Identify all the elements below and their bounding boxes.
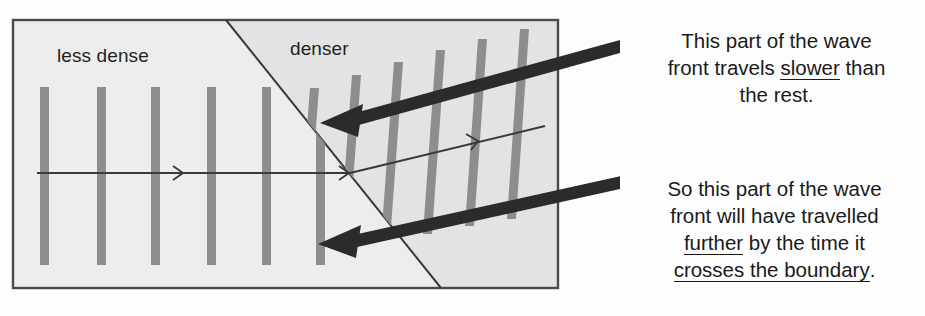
annotation-2-line-4-post: . xyxy=(870,258,876,281)
label-less-dense: less dense xyxy=(57,45,149,66)
label-denser: denser xyxy=(290,38,349,59)
annotation-2-line-3-post: by the time it xyxy=(743,231,865,254)
annotation-2-emphasis-further: further xyxy=(684,231,743,255)
wavefront-bar xyxy=(151,87,160,265)
annotation-1-emphasis-slower: slower xyxy=(780,56,839,80)
annotation-2-emphasis-crosses-boundary: crosses the boundary xyxy=(674,258,870,282)
diagram-svg: less dense denser xyxy=(0,0,620,316)
annotation-2-line-1: So this part of the wave xyxy=(624,175,925,202)
wave-refraction-diagram: less dense denser xyxy=(0,0,620,316)
wavefront-bar xyxy=(40,87,49,265)
annotation-2-line-4: crosses the boundary. xyxy=(624,256,925,283)
annotation-2-line-3: further by the time it xyxy=(624,229,925,256)
annotation-1-line-2: front travels slower than xyxy=(628,54,925,81)
annotation-1-line-2-post: than xyxy=(840,56,886,79)
annotation-1-line-1: This part of the wave xyxy=(628,27,925,54)
refraction-diagram-figure: less dense denser This part of the wave … xyxy=(0,0,925,316)
annotation-2-line-2: front will have travelled xyxy=(624,202,925,229)
annotation-slower-text: This part of the wave front travels slow… xyxy=(628,27,925,108)
annotation-1-line-2-pre: front travels xyxy=(668,56,781,79)
wavefront-bar xyxy=(97,87,106,265)
annotation-further-text: So this part of the wave front will have… xyxy=(624,175,925,283)
wavefront-bar xyxy=(262,87,271,265)
wavefront-bar xyxy=(207,87,216,265)
annotation-1-line-3: the rest. xyxy=(628,81,925,108)
